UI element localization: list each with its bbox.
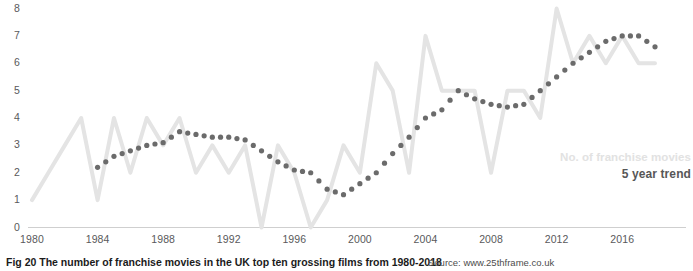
- y-axis-tick-1: 1: [6, 193, 20, 205]
- x-axis-tick-2012: 2012: [537, 233, 577, 245]
- figure-source: Source: www.25thframe.co.uk: [428, 257, 554, 268]
- figure-caption: Fig 20 The number of franchise movies in…: [6, 256, 442, 268]
- trend-dot: [267, 154, 272, 159]
- legend-item-franchise-movies: No. of franchise movies: [560, 149, 691, 166]
- trend-dot: [202, 133, 207, 138]
- trend-dot: [398, 143, 403, 148]
- y-axis-tick-7: 7: [6, 29, 20, 41]
- trend-dot: [284, 163, 289, 168]
- trend-dot: [488, 102, 493, 107]
- trend-dot: [210, 135, 215, 140]
- trend-dot: [562, 67, 567, 72]
- trend-dot: [447, 98, 452, 103]
- trend-dot: [382, 161, 387, 166]
- trend-dot: [570, 61, 575, 66]
- y-axis-tick-4: 4: [6, 111, 20, 123]
- trend-dot: [169, 135, 174, 140]
- trend-dot: [95, 165, 100, 170]
- figure-container: 876543210 198019841988199219962000200420…: [0, 0, 693, 271]
- chart-legend: No. of franchise movies 5 year trend: [560, 149, 691, 183]
- x-axis-tick-1980: 1980: [12, 233, 52, 245]
- trend-dot: [546, 81, 551, 86]
- trend-dot: [325, 187, 330, 192]
- trend-dot: [628, 33, 633, 38]
- trend-dot: [128, 148, 133, 153]
- x-axis-tick-2016: 2016: [602, 233, 642, 245]
- y-axis-tick-2: 2: [6, 166, 20, 178]
- trend-dot: [300, 169, 305, 174]
- trend-dot: [611, 36, 616, 41]
- trend-dot: [120, 151, 125, 156]
- trend-dot: [341, 192, 346, 197]
- x-axis-tick-1988: 1988: [143, 233, 183, 245]
- trend-dot: [390, 151, 395, 156]
- trend-dot: [497, 103, 502, 108]
- trend-dot: [185, 130, 190, 135]
- trend-dot: [226, 135, 231, 140]
- trend-dot: [193, 132, 198, 137]
- trend-dot: [620, 33, 625, 38]
- y-axis-tick-8: 8: [6, 2, 20, 14]
- trend-dot: [144, 143, 149, 148]
- trend-dot: [333, 189, 338, 194]
- trend-dot: [603, 39, 608, 44]
- x-axis-tick-1996: 1996: [274, 233, 314, 245]
- trend-dot: [554, 74, 559, 79]
- trend-dot: [406, 135, 411, 140]
- x-axis-tick-2000: 2000: [340, 233, 380, 245]
- trend-dot: [579, 55, 584, 60]
- trend-dot: [275, 159, 280, 164]
- y-axis-tick-0: 0: [6, 221, 20, 233]
- trend-dot: [636, 33, 641, 38]
- trend-dot: [161, 140, 166, 145]
- trend-dot: [218, 135, 223, 140]
- trend-dot: [587, 50, 592, 55]
- trend-dot: [357, 181, 362, 186]
- trend-dot: [472, 96, 477, 101]
- x-axis-tick-1984: 1984: [78, 233, 118, 245]
- x-axis-tick-2008: 2008: [471, 233, 511, 245]
- trend-dot: [415, 125, 420, 130]
- trend-dot: [251, 143, 256, 148]
- trend-dot: [480, 99, 485, 104]
- trend-dot: [111, 154, 116, 159]
- trend-dot: [365, 176, 370, 181]
- trend-dot: [234, 136, 239, 141]
- trend-dot: [136, 146, 141, 151]
- trend-dot: [349, 187, 354, 192]
- trend-dot: [308, 170, 313, 175]
- trend-dot: [423, 115, 428, 120]
- trend-dot: [652, 44, 657, 49]
- trend-dot: [292, 167, 297, 172]
- trend-dot: [456, 88, 461, 93]
- trend-dot: [595, 44, 600, 49]
- trend-dot: [439, 107, 444, 112]
- trend-dot: [259, 148, 264, 153]
- trend-dot: [431, 111, 436, 116]
- trend-dot: [644, 39, 649, 44]
- x-axis-tick-1992: 1992: [209, 233, 249, 245]
- x-axis-tick-2004: 2004: [405, 233, 445, 245]
- trend-dot: [374, 170, 379, 175]
- y-axis-tick-6: 6: [6, 56, 20, 68]
- trend-dot: [152, 141, 157, 146]
- trend-dot: [243, 137, 248, 142]
- trend-dot: [529, 95, 534, 100]
- y-axis-tick-5: 5: [6, 84, 20, 96]
- chart-plot-area: [0, 0, 693, 271]
- trend-dot: [316, 178, 321, 183]
- legend-item-five-year-trend: 5 year trend: [560, 166, 691, 183]
- trend-dot: [464, 92, 469, 97]
- trend-dot: [505, 104, 510, 109]
- trend-dot: [103, 159, 108, 164]
- trend-dot: [513, 103, 518, 108]
- trend-dot: [521, 102, 526, 107]
- trend-dot: [177, 129, 182, 134]
- trend-dot: [538, 88, 543, 93]
- y-axis-tick-3: 3: [6, 138, 20, 150]
